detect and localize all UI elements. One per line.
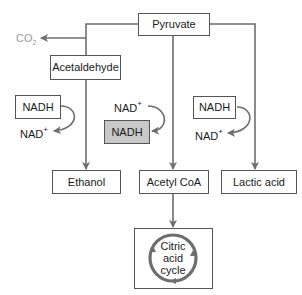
lactic-acid-node: Lactic acid xyxy=(221,170,297,194)
lactic-acid-label: Lactic acid xyxy=(233,177,285,188)
acetaldehyde-label: Acetaldehyde xyxy=(52,62,119,73)
co2-subscript: 2 xyxy=(33,39,37,46)
middle-nad-curve-arrow xyxy=(148,106,164,131)
pyruvate-to-acetaldehyde-line xyxy=(86,24,138,55)
left-nad-base: NAD xyxy=(20,128,43,140)
middle-nadh-box: NADH xyxy=(104,120,150,144)
right-nadh-label: NADH xyxy=(199,102,230,113)
pyruvate-label: Pyruvate xyxy=(152,19,195,30)
left-nadh-label: NADH xyxy=(22,102,53,113)
ethanol-label: Ethanol xyxy=(68,177,105,188)
right-nad-base: NAD xyxy=(195,130,218,142)
middle-nad-base: NAD xyxy=(114,102,137,114)
left-nad-plus-label: NAD+ xyxy=(20,127,48,140)
middle-nad-sup: + xyxy=(137,99,142,108)
left-nad-sup: + xyxy=(43,125,48,134)
cycle-line-3: cycle xyxy=(150,264,196,276)
cycle-line-2: acid xyxy=(150,252,196,264)
right-nad-sup: + xyxy=(218,127,223,136)
ethanol-node: Ethanol xyxy=(52,170,121,194)
pyruvate-node: Pyruvate xyxy=(138,13,210,36)
right-nad-plus-label: NAD+ xyxy=(195,129,223,142)
citric-acid-cycle-label: Citric acid cycle xyxy=(150,240,196,276)
co2-base: CO xyxy=(16,32,33,44)
acetaldehyde-node: Acetaldehyde xyxy=(50,55,121,80)
right-nadh-box: NADH xyxy=(193,96,236,119)
co2-label: CO2 xyxy=(16,33,36,46)
acetyl-coa-node: Acetyl CoA xyxy=(139,170,209,194)
middle-nadh-label: NADH xyxy=(111,127,142,138)
acetyl-coa-label: Acetyl CoA xyxy=(147,177,201,188)
left-nadh-box: NADH xyxy=(15,95,61,119)
cycle-line-1: Citric xyxy=(150,240,196,252)
middle-nad-plus-label: NAD+ xyxy=(114,101,142,114)
